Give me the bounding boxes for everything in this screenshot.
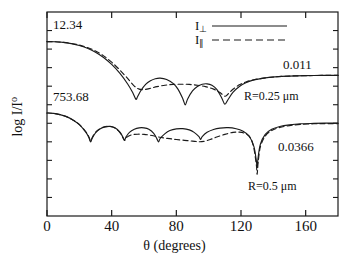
legend-entry-parallel: I∥ xyxy=(195,32,204,48)
x-axis-tick-label-40: 40 xyxy=(94,218,130,235)
legend-lines xyxy=(212,26,287,40)
x-axis-label: θ (degrees) xyxy=(0,238,349,254)
x-axis-tick-label-80: 80 xyxy=(158,218,194,235)
annotation-lower-radius-param: R=0.5 μm xyxy=(248,179,297,194)
figure-container: I⊥ I∥ 12.34 753.68 0.011 0.0366 R=0.25 μ… xyxy=(0,0,349,266)
y-axis-label-text: log I/I xyxy=(10,102,25,137)
annotation-upper-radius-param: R=0.25 μm xyxy=(244,89,299,104)
annotation-lower-end-value: 0.0366 xyxy=(278,139,314,155)
annotation-upper-start-value: 12.34 xyxy=(53,17,82,33)
x-axis-tick-label-0: 0 xyxy=(29,218,65,235)
annotation-upper-end-value: 0.011 xyxy=(283,57,312,73)
y-axis-ticks xyxy=(47,31,338,198)
x-axis-tick-label-120: 120 xyxy=(223,218,259,235)
legend-label-par-subscript: ∥ xyxy=(199,38,204,48)
annotation-lower-start-value: 753.68 xyxy=(53,89,89,105)
y-axis-label-subscript: o xyxy=(8,97,19,102)
y-axis-label: log I/Io xyxy=(8,72,26,162)
x-axis-tick-label-160: 160 xyxy=(288,218,324,235)
